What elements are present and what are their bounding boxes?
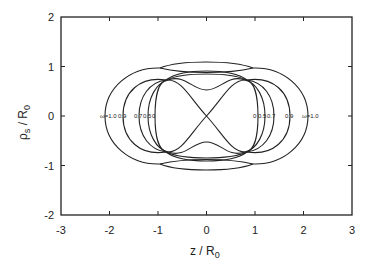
- svg-text:0.9: 0.9: [285, 113, 294, 119]
- svg-text:1: 1: [48, 61, 54, 73]
- svg-text:-1: -1: [153, 224, 163, 236]
- svg-text:0: 0: [48, 110, 54, 122]
- svg-text:0.7: 0.7: [134, 113, 143, 119]
- y-axis-label: ρs / R0: [16, 105, 32, 140]
- svg-text:0.7: 0.7: [267, 113, 276, 119]
- svg-text:-3: -3: [56, 224, 66, 236]
- curve-labels-left: ω=1.0 0.9 0.7 0.5 0: [100, 113, 156, 119]
- y-tick-labels: 2 1 0 -1 -2: [44, 11, 54, 221]
- x-tick-labels: -3 -2 -1 0 1 2 3: [56, 224, 355, 236]
- svg-text:2: 2: [300, 224, 306, 236]
- curve-strand-lower: [160, 160, 253, 165]
- svg-text:0: 0: [203, 224, 209, 236]
- svg-text:-1: -1: [44, 160, 54, 172]
- svg-text:0.5: 0.5: [143, 113, 152, 119]
- svg-text:ω=1.0: ω=1.0: [302, 113, 319, 119]
- svg-text:2: 2: [48, 11, 54, 23]
- svg-text:3: 3: [349, 224, 355, 236]
- x-axis-label: z / R0: [190, 244, 220, 260]
- chart-plot: -3 -2 -1 0 1 2 3 2 1 0 -1 -2 z / R0 ρs /…: [0, 0, 374, 266]
- svg-text:1: 1: [252, 224, 258, 236]
- svg-text:0: 0: [253, 113, 257, 119]
- svg-text:0.5: 0.5: [258, 113, 267, 119]
- curve-omega-0: [155, 80, 258, 152]
- svg-text:0.9: 0.9: [118, 113, 127, 119]
- svg-text:-2: -2: [44, 209, 54, 221]
- svg-text:-2: -2: [105, 224, 115, 236]
- svg-text:ω=1.0: ω=1.0: [100, 113, 117, 119]
- curve-strand-upper: [160, 68, 253, 73]
- curve-labels-right: 0 0.5 0.7 0.9 ω=1.0: [253, 113, 319, 119]
